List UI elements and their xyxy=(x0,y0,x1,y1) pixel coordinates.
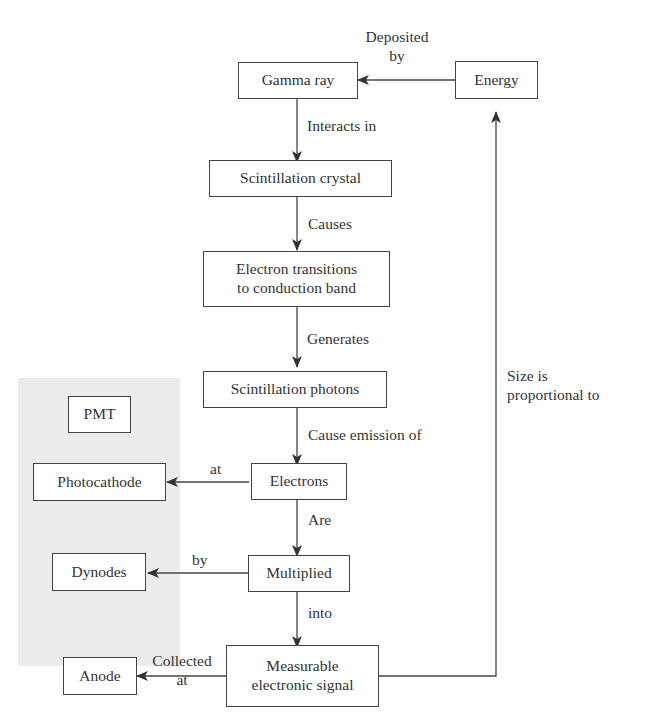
node-pmt: PMT xyxy=(68,396,131,433)
node-label: Scintillation crystal xyxy=(240,169,361,188)
edge-label-line2: by xyxy=(361,47,433,66)
node-label: Anode xyxy=(79,667,120,686)
edge-label-collected-at: Collected at xyxy=(141,652,223,689)
edge-label-interacts-in: Interacts in xyxy=(307,117,376,136)
edge-label-at: at xyxy=(210,460,221,479)
node-anode: Anode xyxy=(63,657,137,695)
edge-label-causes: Causes xyxy=(308,215,352,234)
edge-label-are: Are xyxy=(308,511,331,530)
node-label: Electrons xyxy=(270,472,329,491)
edge-label-into: into xyxy=(308,604,332,623)
node-electron-transitions: Electron transitions to conduction band xyxy=(203,251,390,307)
node-label: Energy xyxy=(474,71,518,90)
node-label: Dynodes xyxy=(71,563,126,582)
node-label: PMT xyxy=(84,405,116,424)
node-energy: Energy xyxy=(455,61,538,99)
node-label: Gamma ray xyxy=(262,71,335,90)
node-label-line1: Measurable xyxy=(266,657,338,676)
node-label: Multiplied xyxy=(266,564,331,583)
edge-label-by: by xyxy=(192,551,208,570)
node-gamma-ray: Gamma ray xyxy=(238,62,358,99)
node-multiplied: Multiplied xyxy=(248,555,350,592)
node-scintillation-crystal: Scintillation crystal xyxy=(209,160,392,197)
edge-label-cause-emission-of: Cause emission of xyxy=(308,426,422,445)
node-label-line2: electronic signal xyxy=(252,676,354,695)
node-label: Photocathode xyxy=(57,473,141,492)
node-label: Scintillation photons xyxy=(231,380,360,399)
node-dynodes: Dynodes xyxy=(52,553,146,591)
node-electrons: Electrons xyxy=(251,463,347,500)
edge-label-generates: Generates xyxy=(307,330,369,349)
edge-label-size-proportional: Size is proportional to xyxy=(507,367,600,404)
edge-label-line2: proportional to xyxy=(507,386,600,405)
edge-label-line1: Collected xyxy=(141,652,223,671)
edge-label-line1: Size is xyxy=(507,367,600,386)
node-scintillation-photons: Scintillation photons xyxy=(203,371,387,408)
node-measurable-signal: Measurable electronic signal xyxy=(226,645,379,707)
edge-label-deposited-by: Deposited by xyxy=(361,28,433,65)
edge-label-line2: at xyxy=(141,671,223,690)
edge-label-line1: Deposited xyxy=(361,28,433,47)
node-photocathode: Photocathode xyxy=(33,463,166,501)
node-label-line2: to conduction band xyxy=(237,279,356,298)
node-label-line1: Electron transitions xyxy=(236,260,357,279)
